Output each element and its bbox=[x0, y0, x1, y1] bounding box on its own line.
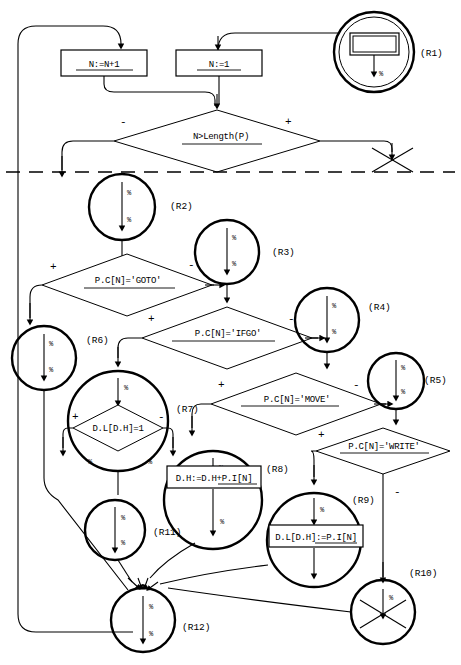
sign-minus-dl: - bbox=[158, 411, 165, 423]
region-label-r10: (R10) bbox=[409, 568, 438, 579]
sign-minus-goto: - bbox=[188, 259, 195, 271]
feedback-loop-outer bbox=[18, 26, 133, 632]
node-r4[interactable]: % % (R4) bbox=[295, 288, 391, 352]
region-label-r6: (R6) bbox=[86, 335, 109, 346]
edge-ifgo-plus bbox=[118, 338, 142, 358]
flowchart-svg: % (R1) N:=N+1 N:=1 N>Length(P) - + bbox=[0, 0, 461, 665]
decision-cmd-goto-label: P.C[N]='GOTO' bbox=[95, 276, 161, 286]
percent-out-r12: % bbox=[149, 630, 154, 638]
edge-len-minus bbox=[62, 141, 114, 170]
percent-in-r9: % bbox=[320, 506, 325, 514]
percent-out-r4: % bbox=[332, 328, 337, 336]
decision-len-test[interactable]: N>Length(P) - + bbox=[114, 110, 320, 172]
process-set-n1-label: N:=1 bbox=[209, 60, 229, 70]
percent-in-r2: % bbox=[127, 189, 132, 197]
process-dh-add-label: D.H:=D.H+P.I[N] bbox=[176, 474, 253, 484]
percent-in-r4: % bbox=[332, 302, 337, 310]
node-r3[interactable]: % % (R3) bbox=[195, 220, 295, 284]
sign-minus-ifgo: - bbox=[288, 313, 295, 325]
sign-plus-write: + bbox=[318, 429, 325, 441]
edge-r9-to-r12 bbox=[160, 565, 268, 584]
process-dl-set-label: D.L[D.H]:=P.I[N] bbox=[275, 533, 357, 543]
decision-cmd-goto[interactable]: P.C[N]='GOTO' + - bbox=[42, 254, 212, 316]
decision-cmd-write-label: P.C[N]='WRITE' bbox=[348, 442, 419, 452]
node-r6[interactable]: % % (R6) bbox=[12, 326, 109, 390]
percent-in-r3: % bbox=[232, 234, 237, 242]
decision-cmd-ifgo-label: P.C[N]='IFGO' bbox=[195, 329, 261, 339]
decision-cmd-ifgo[interactable]: P.C[N]='IFGO' + - bbox=[142, 307, 312, 369]
edge-r8-to-r12 bbox=[150, 543, 195, 578]
percent-label-r1: % bbox=[379, 70, 384, 78]
decision-dl-test-label: D.L[D.H]=1 bbox=[92, 424, 143, 434]
edge-goto-plus bbox=[30, 285, 42, 318]
process-inc-n[interactable]: N:=N+1 bbox=[61, 50, 147, 76]
percent-in-r7: % bbox=[124, 384, 129, 392]
sign-plus-move: + bbox=[218, 379, 225, 391]
region-label-r5: (R5) bbox=[424, 375, 447, 386]
decision-len-test-label: N>Length(P) bbox=[193, 132, 249, 142]
percent-right-r7: % bbox=[148, 458, 153, 466]
sign-minus-move: - bbox=[353, 379, 360, 391]
edge-incn-merge bbox=[104, 76, 215, 106]
sign-plus-dl: + bbox=[72, 411, 79, 423]
node-r9[interactable]: % D.L[D.H]:=P.I[N] (R9) bbox=[267, 493, 375, 587]
decision-dl-test[interactable]: D.L[D.H]=1 + - bbox=[72, 405, 165, 451]
region-label-r2: (R2) bbox=[170, 201, 193, 212]
node-r7[interactable]: % (R7) D.L[D.H]=1 + - % % bbox=[63, 371, 199, 471]
edge-r1-to-setn1 bbox=[218, 33, 339, 50]
node-r11[interactable]: % % (R11) bbox=[85, 500, 182, 560]
percent-in-r6: % bbox=[49, 340, 54, 348]
decision-cmd-move[interactable]: P.C[N]='MOVE' + - bbox=[211, 373, 381, 435]
node-r12[interactable]: % % (R12) bbox=[111, 588, 211, 652]
sign-plus-goto: + bbox=[50, 261, 57, 273]
percent-out-r8: % bbox=[220, 518, 225, 526]
region-label-r3: (R3) bbox=[272, 247, 295, 258]
node-r10[interactable]: % (R10) bbox=[351, 568, 438, 644]
flowchart-canvas: % (R1) N:=N+1 N:=1 N>Length(P) - + bbox=[0, 0, 461, 665]
percent-out-r2: % bbox=[127, 216, 132, 224]
node-r2[interactable]: % % (R2) bbox=[89, 174, 193, 240]
percent-out-r6: % bbox=[49, 366, 54, 374]
sign-minus-write: - bbox=[394, 486, 401, 498]
edge-len-plus bbox=[320, 141, 392, 152]
sign-plus-len: + bbox=[285, 116, 292, 128]
percent-out-r11: % bbox=[121, 539, 126, 547]
region-label-r12: (R12) bbox=[182, 622, 211, 633]
percent-in-r12: % bbox=[149, 603, 154, 611]
node-r5[interactable]: % % (R5) bbox=[368, 353, 447, 409]
region-label-r8: (R8) bbox=[266, 464, 289, 475]
edge-r10-to-r12 bbox=[168, 588, 351, 612]
region-label-r1: (R1) bbox=[420, 48, 443, 59]
region-label-r7: (R7) bbox=[176, 404, 199, 415]
edge-r11-to-r12 bbox=[118, 560, 132, 582]
percent-in-r11: % bbox=[121, 514, 126, 522]
percent-in-r5: % bbox=[401, 364, 406, 372]
sign-plus-ifgo: + bbox=[148, 313, 155, 325]
sign-minus-len: - bbox=[120, 116, 127, 128]
region-label-r4: (R4) bbox=[368, 302, 391, 313]
region-label-r11: (R11) bbox=[153, 527, 182, 538]
percent-out-r5: % bbox=[401, 388, 406, 396]
decision-cmd-move-label: P.C[N]='MOVE' bbox=[264, 395, 330, 405]
percent-out-r3: % bbox=[232, 260, 237, 268]
region-label-r9: (R9) bbox=[352, 495, 375, 506]
process-inc-n-label: N:=N+1 bbox=[89, 60, 120, 70]
node-r1[interactable]: % (R1) bbox=[334, 12, 443, 92]
percent-in-r10: % bbox=[389, 594, 394, 602]
process-set-n1[interactable]: N:=1 bbox=[176, 50, 262, 76]
